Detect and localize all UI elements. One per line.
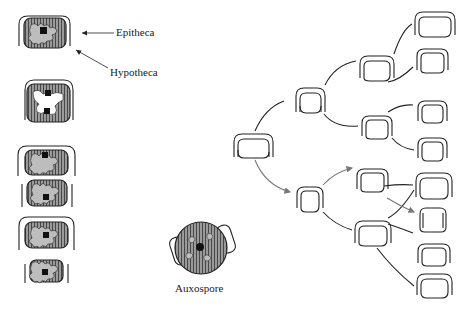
epitheca-label: Epitheca — [116, 26, 154, 38]
stage-1-cell — [19, 16, 70, 48]
tree-node-gen4-3 — [418, 101, 447, 123]
tree-node-gen3-4 — [355, 221, 391, 246]
tree-node-gen4-5 — [416, 173, 452, 199]
tree-node-gen4-1 — [415, 12, 455, 37]
tree-node-gen4-6 — [420, 208, 446, 232]
tree-node-gen2-top — [296, 88, 325, 113]
tree-node-gen2-bottom — [297, 187, 323, 212]
stage-2-cell — [25, 80, 73, 122]
tree-node-gen3-2 — [362, 116, 392, 139]
arrow-gen3-to-gen4 — [387, 198, 414, 212]
tree-node-gen4-7 — [418, 244, 450, 266]
hypotheca-label: Hypotheca — [110, 66, 158, 78]
tree-node-gen3-1 — [360, 56, 394, 81]
auxospore-label: Auxospore — [175, 282, 223, 294]
hypotheca-pointer — [76, 50, 108, 68]
diagram-canvas — [0, 0, 476, 309]
arrow-root-to-gen2 — [255, 160, 290, 192]
diatom-figure: Epitheca Hypotheca Auxospore — [0, 0, 476, 309]
tree-node-gen1 — [234, 134, 273, 158]
division-tree — [234, 12, 455, 298]
tree-node-gen3-3 — [357, 169, 388, 192]
auxospore-cell — [168, 222, 237, 274]
tree-node-gen4-2 — [417, 49, 448, 73]
stage-4-cells — [19, 217, 74, 283]
arrow-gen2-to-gen3 — [323, 168, 352, 185]
stage-3-cells — [18, 146, 75, 207]
tree-node-gen4-8 — [417, 274, 452, 298]
edge-root-top — [255, 101, 284, 131]
tree-node-gen4-4 — [418, 138, 447, 161]
lineage-arrows — [255, 160, 414, 212]
